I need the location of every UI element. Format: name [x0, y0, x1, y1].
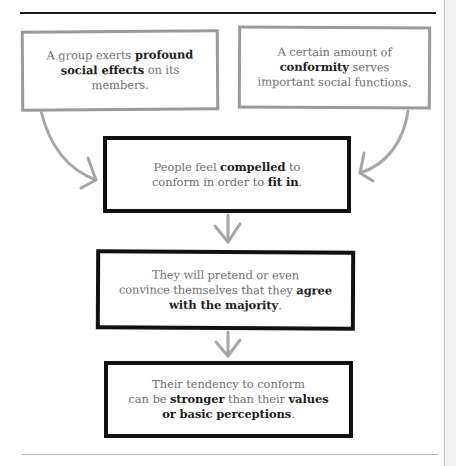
emphasis-text: values	[289, 392, 329, 406]
box-text: A group exerts profoundsocial effects on…	[46, 47, 193, 93]
curved-arrow-right-icon	[360, 111, 408, 181]
box-text: Their tendency to conformcan be stronger…	[128, 377, 328, 422]
emphasis-text: profound	[135, 47, 193, 61]
emphasis-text: fit in	[268, 175, 299, 189]
flow-box-compelled-to-conform: People feel compelled toconform in order…	[103, 136, 351, 213]
flow-box-group-effects: A group exerts profoundsocial effects on…	[21, 29, 220, 111]
emphasis-text: with the majority	[169, 297, 278, 312]
emphasis-text: or basic perceptions	[162, 407, 291, 421]
body-text: to	[285, 160, 300, 174]
emphasis-text: social effects	[61, 63, 144, 78]
body-text: than their	[224, 392, 288, 406]
emphasis-text: agree	[296, 283, 332, 297]
body-text: A group exerts	[46, 48, 135, 63]
body-text: important social functions.	[258, 75, 412, 90]
down-arrow-1-icon	[215, 215, 240, 242]
flow-box-agree-with-majority: They will pretend or evenconvince themse…	[96, 249, 355, 330]
box-text: They will pretend or evenconvince themse…	[119, 267, 332, 313]
body-text: members.	[92, 78, 149, 92]
body-text: can be	[128, 392, 169, 406]
box-text: People feel compelled toconform in order…	[152, 160, 302, 190]
box-text: A certain amount ofconformity servesimpo…	[258, 45, 412, 91]
body-text: Their tendency to conform	[152, 377, 305, 391]
body-text: on its	[144, 63, 179, 77]
flow-box-stronger-than-values: Their tendency to conformcan be stronger…	[104, 361, 353, 438]
body-text: conform in order to	[152, 175, 268, 189]
curved-arrow-left-icon	[41, 111, 96, 188]
body-text: A certain amount of	[278, 45, 392, 60]
emphasis-text: compelled	[220, 160, 285, 174]
flow-box-conformity-functions: A certain amount ofconformity servesimpo…	[238, 25, 431, 109]
emphasis-text: stronger	[170, 392, 225, 406]
down-arrow-2-icon	[216, 332, 240, 356]
emphasis-text: conformity	[280, 60, 349, 74]
body-text: .	[298, 175, 302, 189]
body-text: convince themselves that they	[119, 282, 296, 297]
body-text: They will pretend or even	[152, 267, 299, 282]
body-text: .	[278, 298, 282, 312]
body-text: People feel	[154, 160, 220, 174]
body-text: .	[291, 407, 295, 421]
body-text: serves	[349, 60, 389, 74]
